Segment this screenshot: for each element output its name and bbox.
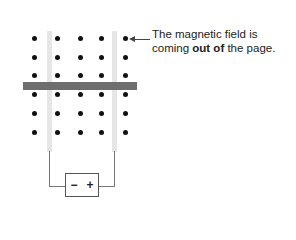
field-dot-icon xyxy=(55,36,60,41)
field-dot-icon xyxy=(32,111,37,116)
field-dot-icon xyxy=(78,73,83,78)
field-dot-icon xyxy=(55,92,60,97)
field-dot-icon xyxy=(123,73,128,78)
battery-negative-terminal: − xyxy=(70,178,77,192)
field-dot-icon xyxy=(78,111,83,116)
battery-positive-terminal: + xyxy=(86,178,93,192)
field-dot-icon xyxy=(123,130,128,135)
field-dot-icon xyxy=(78,55,83,60)
sliding-bar xyxy=(23,82,137,90)
field-dot-icon xyxy=(99,92,104,97)
field-dot-icon xyxy=(123,111,128,116)
field-dot-icon xyxy=(123,92,128,97)
field-dot-icon xyxy=(78,92,83,97)
field-dot-icon xyxy=(55,55,60,60)
field-dot-icon xyxy=(32,55,37,60)
annotation-text-end: the page. xyxy=(224,42,275,54)
left-wire-horizontal xyxy=(49,186,65,187)
annotation-line-1: The magnetic field is xyxy=(152,27,275,41)
annotation-label: The magnetic field is coming out of the … xyxy=(152,27,275,55)
field-dot-icon xyxy=(32,36,37,41)
right-rail xyxy=(112,31,117,152)
annotation-line-2: coming out of the page. xyxy=(152,41,275,55)
field-dot-icon xyxy=(99,55,104,60)
annotation-emphasis: out of xyxy=(192,42,224,54)
field-dot-icon xyxy=(32,73,37,78)
field-dot-icon xyxy=(99,73,104,78)
left-rail xyxy=(47,31,52,152)
battery: − + xyxy=(65,173,99,197)
field-dot-icon xyxy=(55,111,60,116)
right-wire xyxy=(114,151,115,187)
field-dot-icon xyxy=(123,55,128,60)
arrow-line xyxy=(133,39,150,40)
field-dot-icon xyxy=(55,73,60,78)
field-dot-icon xyxy=(99,130,104,135)
annotation-text: coming xyxy=(152,42,192,54)
field-dot-icon xyxy=(78,130,83,135)
field-dot-icon xyxy=(32,92,37,97)
field-dot-icon xyxy=(55,130,60,135)
field-dot-icon xyxy=(78,36,83,41)
field-dot-icon xyxy=(99,111,104,116)
field-dot-icon xyxy=(32,130,37,135)
left-wire xyxy=(49,151,50,187)
field-dot-icon xyxy=(99,36,104,41)
right-wire-horizontal xyxy=(99,186,115,187)
field-dot-icon xyxy=(123,36,128,41)
